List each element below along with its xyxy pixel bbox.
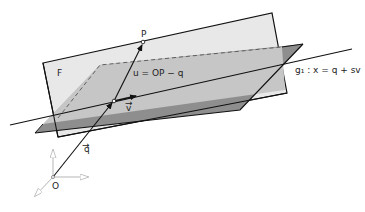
point-P: [141, 40, 145, 44]
arrow-over-v: →: [125, 98, 133, 108]
coordinate-axes: [35, 150, 88, 196]
geometry-figure: P F O q → v → u = OP − q g₁ : x = q + sv: [0, 0, 365, 212]
arrow-over-q: →: [82, 140, 90, 150]
label-plane-F: F: [57, 68, 62, 78]
diagram-canvas: P F O q → v → u = OP − q g₁ : x = q + sv: [0, 0, 365, 212]
point-on-line: [112, 99, 116, 103]
x-axis: [35, 177, 53, 196]
label-line-g1: g₁ : x = q + sv: [295, 65, 361, 75]
label-P: P: [141, 29, 147, 39]
point-O: [52, 176, 55, 179]
label-origin: O: [52, 181, 59, 191]
label-vector-u: u = OP − q: [133, 68, 183, 78]
